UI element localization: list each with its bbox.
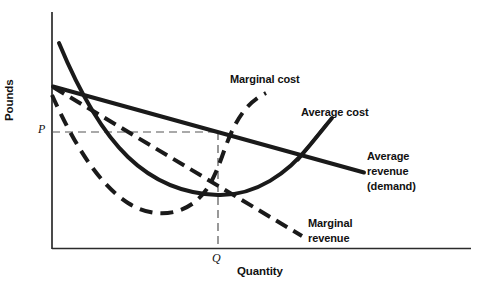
economics-chart-figure: Pounds Quantity P Q Marginal cost Averag… (0, 0, 477, 297)
average-revenue-curve (53, 87, 364, 173)
marginal-cost-label: Marginal cost (230, 73, 300, 86)
average-cost-label: Average cost (301, 106, 368, 119)
average-cost-leader-line (298, 125, 326, 160)
marginal-revenue-label: Marginal revenue (308, 216, 352, 246)
guide-lines-group (52, 132, 218, 248)
x-axis-title: Quantity (237, 265, 283, 278)
x-axis-tick-label-q: Q (212, 252, 221, 265)
y-axis-tick-label-p: P (38, 123, 45, 136)
y-axis-title: Pounds (3, 79, 16, 121)
average-revenue-label: Average revenue (demand) (367, 149, 416, 194)
